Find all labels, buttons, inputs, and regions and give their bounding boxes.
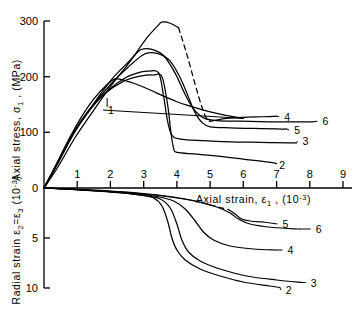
- tick-labels-group: 0 100 200 300 5 10 1 2 3 4 5 6 7 8 9: [20, 15, 346, 294]
- stress-strain-chart: 0 100 200 300 5 10 1 2 3 4 5 6 7 8 9 Axi…: [0, 0, 362, 321]
- lower-y-axis-title: Radial strain ε2=ε3 (10-3): [10, 175, 25, 304]
- curve-lower-5: [44, 188, 210, 205]
- leader-line-lower-2: [280, 288, 281, 291]
- xtick-label-6: 6: [240, 168, 246, 180]
- curve-label-upper-1: 1: [108, 104, 114, 116]
- curve-label-upper-2: 2: [279, 159, 285, 171]
- curve-label-lower-2: 2: [286, 284, 292, 296]
- curve-label-upper-3: 3: [302, 135, 308, 147]
- xtick-label-5: 5: [207, 168, 213, 180]
- ytick-label-300: 300: [20, 15, 38, 27]
- leader-line-lower-5: [263, 222, 277, 224]
- xtick-label-9: 9: [340, 168, 346, 180]
- leader-line-upper-4: [277, 116, 280, 117]
- axis-titles-group: Axial stress, σ1 , (MPa) Radial strain ε…: [10, 59, 311, 304]
- xtick-label-2: 2: [107, 168, 113, 180]
- curve-label-upper-4: 4: [284, 111, 290, 123]
- curve-label-lower-4: 4: [288, 244, 294, 256]
- xtick-label-8: 8: [307, 168, 313, 180]
- leader-line-upper-3: [296, 141, 297, 143]
- ytick-label-100: 100: [20, 126, 38, 138]
- curve-label-lower-5: 5: [283, 218, 289, 230]
- curve-upper-5: [44, 53, 287, 188]
- xtick-label-3: 3: [141, 168, 147, 180]
- curves-group: [44, 22, 313, 287]
- curve-label-lower-3: 3: [311, 277, 317, 289]
- ytick-label-5: 5: [32, 232, 38, 244]
- ytick-label-10: 10: [26, 282, 38, 294]
- curve-label-lower-6: 6: [316, 223, 322, 235]
- leader-line-upper-5: [287, 129, 290, 130]
- xtick-label-1: 1: [74, 168, 80, 180]
- ytick-label-200: 200: [20, 71, 38, 83]
- chart-figure: 0 100 200 300 5 10 1 2 3 4 5 6 7 8 9 Axi…: [0, 0, 362, 321]
- curve-label-upper-5: 5: [294, 124, 300, 136]
- curve-label-upper-6: 6: [322, 115, 328, 127]
- leader-line-upper-6: [313, 121, 317, 122]
- xtick-label-4: 4: [174, 168, 180, 180]
- ytick-label-0-upper: 0: [32, 182, 38, 194]
